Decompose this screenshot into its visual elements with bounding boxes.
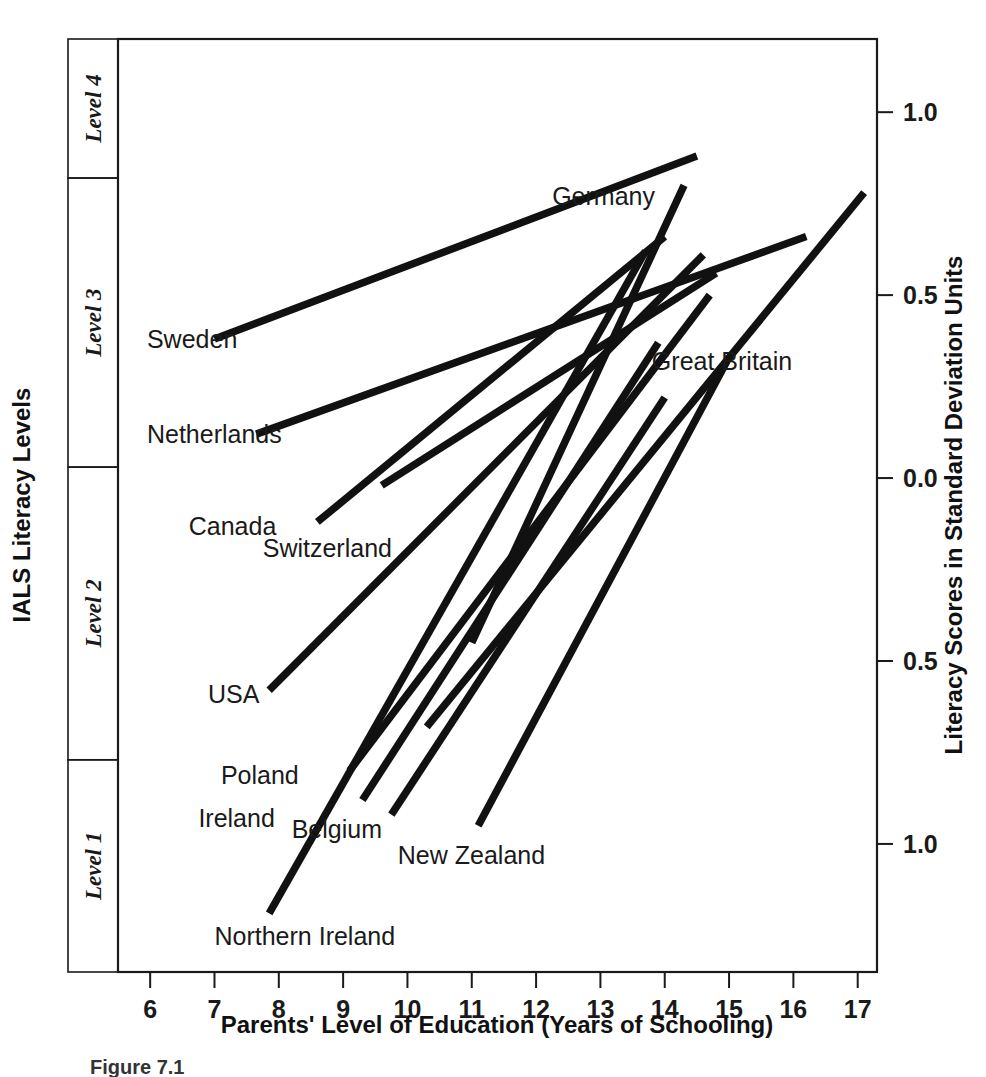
level-band-label-3: Level 2 bbox=[81, 579, 106, 648]
level-band-label-1: Level 4 bbox=[81, 74, 106, 143]
x-tick-label-6: 6 bbox=[143, 995, 157, 1023]
series-label-sweden: Sweden bbox=[147, 325, 237, 353]
series-label-netherlands: Netherlands bbox=[147, 420, 282, 448]
trend-line-netherlands bbox=[256, 237, 806, 435]
ials-level-band-group: Level 4Level 3Level 2Level 1 bbox=[68, 39, 118, 972]
series-label-usa: USA bbox=[208, 680, 260, 708]
x-tick-label-17: 17 bbox=[844, 995, 872, 1023]
y-tick-label-0: 1.0 bbox=[903, 98, 938, 126]
literacy-education-chart: Level 4Level 3Level 2Level 1 IALS Litera… bbox=[0, 0, 986, 1077]
y-tick-label-4: 1.0 bbox=[903, 830, 938, 858]
series-label-poland: Poland bbox=[221, 761, 299, 789]
x-tick-label-16: 16 bbox=[779, 995, 807, 1023]
level-band-label-2: Level 3 bbox=[81, 288, 106, 357]
figure-caption: Figure 7.1 bbox=[90, 1056, 184, 1077]
series-label-switzerland: Switzerland bbox=[263, 534, 392, 562]
series-label-great-britain: Great Britain bbox=[652, 347, 792, 375]
series-label-ireland: Ireland bbox=[198, 804, 274, 832]
trend-line-switzerland bbox=[382, 273, 716, 485]
y-axis-group: 1.00.50.00.51.0 bbox=[877, 98, 938, 858]
trend-line-northern-ireland bbox=[269, 251, 645, 913]
series-label-germany: Germany bbox=[552, 182, 655, 210]
y-tick-label-3: 0.5 bbox=[903, 647, 938, 675]
y-tick-label-1: 0.5 bbox=[903, 281, 938, 309]
level-band-label-4: Level 1 bbox=[81, 832, 106, 901]
series-label-northern-ireland: Northern Ireland bbox=[214, 922, 395, 950]
y-tick-label-2: 0.0 bbox=[903, 464, 938, 492]
series-label-new-zealand: New Zealand bbox=[398, 841, 545, 869]
y-axis-title: Literacy Scores in Standard Deviation Un… bbox=[940, 256, 967, 755]
figure-container: Level 4Level 3Level 2Level 1 IALS Litera… bbox=[0, 0, 986, 1077]
series-label-belgium: Belgium bbox=[292, 815, 382, 843]
x-tick-label-7: 7 bbox=[208, 995, 222, 1023]
ials-levels-axis-title: IALS Literacy Levels bbox=[8, 388, 35, 623]
x-axis-title: Parents' Level of Education (Years of Sc… bbox=[221, 1011, 773, 1038]
